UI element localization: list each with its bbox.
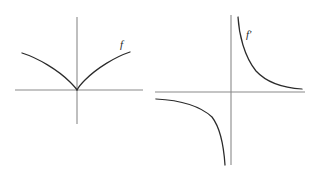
right-panel-graph-f-prime: f' [155,15,305,165]
figure-canvas: f f' [0,0,323,174]
curve-label-f-prime: f' [246,28,252,40]
curve-label-f: f [120,38,125,50]
curve-f-prime-lower-left-branch [156,99,225,165]
curve-f-right-branch [77,52,130,90]
curve-f-left-branch [22,53,77,90]
math-figure: f f' [0,0,323,174]
left-panel-graph-f: f [15,17,143,124]
